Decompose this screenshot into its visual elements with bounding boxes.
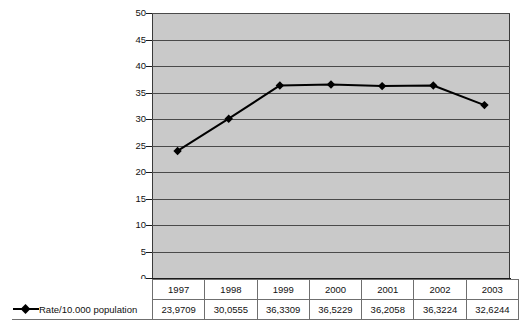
table-header-row: 1997199819992000200120022003 [12, 280, 518, 300]
y-axis-tick-label: 20 [112, 167, 146, 177]
data-point-marker [378, 82, 386, 90]
legend-label: Rate/10.000 population [39, 304, 137, 315]
table-header-cell: 2000 [309, 280, 361, 300]
y-axis-tick-mark [146, 40, 152, 41]
table-header-cell: 1999 [257, 280, 309, 300]
y-axis-tick-label: 10 [112, 220, 146, 230]
y-axis-tick-mark [146, 252, 152, 253]
data-point-marker [327, 80, 335, 88]
y-axis-tick-label: 50 [112, 8, 146, 18]
plot-area [152, 13, 510, 278]
data-point-marker [429, 81, 437, 89]
y-axis-labels: 50454035302520151050 [108, 0, 146, 326]
table-data-cell: 30,0555 [205, 300, 257, 320]
table-corner-cell [12, 280, 153, 300]
table-data-cell: 36,3309 [257, 300, 309, 320]
table-data-cell: 36,2058 [362, 300, 414, 320]
y-axis-tick-mark [146, 146, 152, 147]
y-axis-tick-label: 5 [112, 247, 146, 257]
table-data-cell: 32,6244 [466, 300, 518, 320]
series-line [178, 84, 485, 151]
y-axis-tick-mark [146, 66, 152, 67]
table-header-cell: 2003 [466, 280, 518, 300]
data-point-marker [480, 101, 488, 109]
y-axis-tick-label: 15 [112, 194, 146, 204]
y-axis-tick-mark [146, 13, 152, 14]
table-header-cell: 2001 [362, 280, 414, 300]
table-header-cell: 1997 [153, 280, 205, 300]
y-axis-tick-label: 45 [112, 35, 146, 45]
table-data-cell: 23,9709 [153, 300, 205, 320]
table-data-cell: 36,5229 [309, 300, 361, 320]
y-axis-tick-label: 25 [112, 141, 146, 151]
diamond-line-marker-icon [13, 303, 39, 315]
y-axis-tick-mark [146, 225, 152, 226]
table-row: Rate/10.000 population 23,970930,055536,… [12, 300, 518, 320]
y-axis-tick-mark [146, 199, 152, 200]
y-axis-tick-mark [146, 93, 152, 94]
y-axis-tick-label: 35 [112, 88, 146, 98]
table-header-cell: 2002 [414, 280, 466, 300]
table-data-cell: 36,3224 [414, 300, 466, 320]
y-axis-tick-mark [146, 119, 152, 120]
table-header-cell: 1998 [205, 280, 257, 300]
data-table: 1997199819992000200120022003 Rate/10.000… [12, 279, 519, 320]
data-series-layer [152, 13, 510, 278]
y-axis-tick-label: 40 [112, 61, 146, 71]
legend-cell: Rate/10.000 population [12, 300, 153, 320]
y-axis-tick-mark [146, 172, 152, 173]
y-axis-tick-label: 30 [112, 114, 146, 124]
